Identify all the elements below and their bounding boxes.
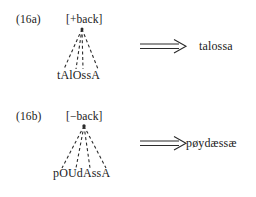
example-16a: (16a) [+back] tAlOssA talossa <box>0 0 256 98</box>
surface-form-16b: pøydæssæ <box>186 136 237 150</box>
association-lines-16b <box>50 123 150 169</box>
example-number-16b: (16b) <box>16 110 41 123</box>
underlying-form-16b: pOUdAssA <box>53 166 110 180</box>
double-right-arrow-icon-16a <box>139 38 191 56</box>
feature-node-16a: [+back] <box>66 13 103 26</box>
underlying-form-16a: tAlOssA <box>57 68 100 82</box>
example-16b: (16b) [−back] pOUdAssA pøydæssæ <box>0 98 256 197</box>
feature-node-16b: [−back] <box>66 110 103 123</box>
surface-form-16a: talossa <box>199 39 233 53</box>
double-right-arrow-icon-16b <box>139 135 191 153</box>
example-number-16a: (16a) <box>16 13 41 26</box>
association-lines-16a <box>50 26 150 72</box>
